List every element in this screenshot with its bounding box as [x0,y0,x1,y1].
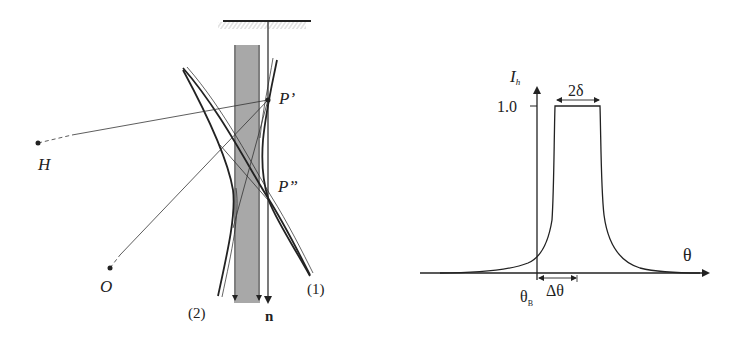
width-label: 2δ [568,82,584,99]
y-tick-label: 1.0 [497,98,517,115]
normal-vector-label: n [265,308,274,324]
p-double-prime-label: P” [277,177,298,196]
left-diagram: n (1) (2) [36,21,325,324]
curve-1-label: (1) [307,281,325,298]
offset-label: Δθ [546,282,564,299]
curve-2-label: (2) [188,305,206,322]
h-label: H [37,155,52,174]
bragg-angle-label: θB [520,288,533,308]
figure: n (1) (2) [0,0,741,337]
y-axis-label: Ih [509,67,521,87]
point-p-prime [266,98,271,103]
x-axis-label: θ [683,245,692,265]
reflectivity-curve [440,106,700,273]
o-label: O [100,277,112,296]
crystal-slab [234,45,260,303]
point-h [36,141,41,146]
dashed-extensions [38,135,120,268]
p-prime-label: P’ [278,89,295,108]
ceiling-support [218,21,311,29]
rocking-curve-plot: θ Ih 1.0 2δ Δθ θB [420,67,708,308]
point-o [108,266,113,271]
